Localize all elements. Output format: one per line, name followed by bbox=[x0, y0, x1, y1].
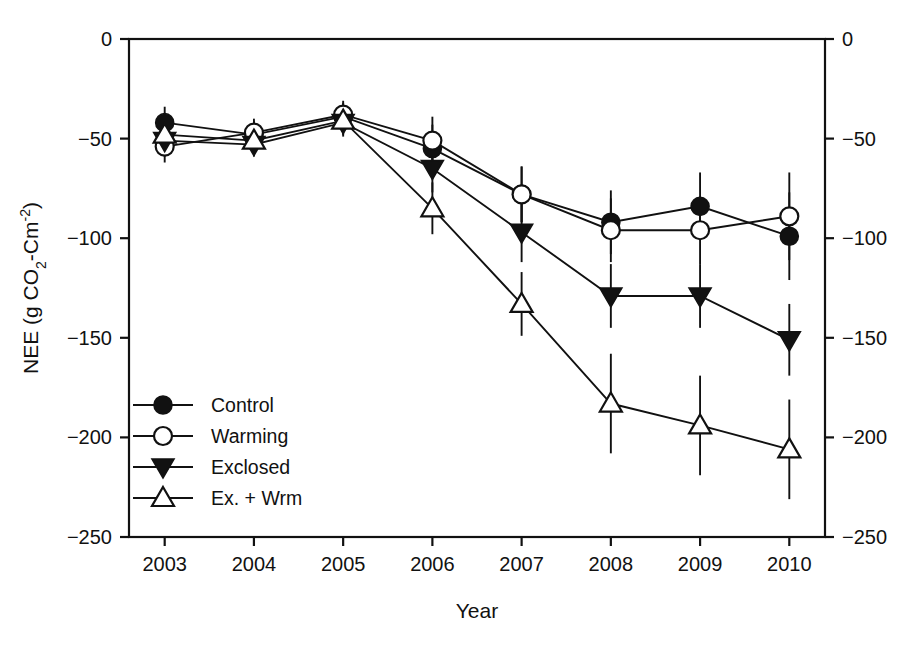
marker-filled-circle bbox=[691, 197, 709, 215]
legend-label: Control bbox=[211, 394, 274, 416]
marker-open-circle bbox=[513, 185, 531, 203]
legend-item-exclosed: Exclosed bbox=[133, 456, 290, 478]
y-axis-title-middle: -Cm bbox=[19, 221, 42, 261]
y-tick-label-right: −200 bbox=[842, 426, 887, 448]
x-tick-label: 2007 bbox=[499, 553, 544, 575]
x-tick-label: 2006 bbox=[410, 553, 455, 575]
legend-item-warming: Warming bbox=[133, 425, 288, 447]
marker-open-circle bbox=[423, 132, 441, 150]
y-tick-label-right: −150 bbox=[842, 327, 887, 349]
legend-label: Warming bbox=[211, 425, 288, 447]
marker-open-up-triangle bbox=[152, 487, 174, 506]
y-tick-label-left: −150 bbox=[67, 327, 112, 349]
x-axis: 20032004200520062007200820092010 bbox=[142, 537, 811, 575]
x-tick-label: 2009 bbox=[678, 553, 723, 575]
y-axis-title-suffix: ) bbox=[19, 202, 42, 209]
legend-item-ex-wrm: Ex. + Wrm bbox=[133, 487, 302, 509]
y-tick-label-right: −250 bbox=[842, 526, 887, 548]
x-tick-label: 2003 bbox=[142, 553, 187, 575]
y-axis-title-prefix: NEE (g CO bbox=[19, 269, 42, 374]
marker-filled-circle bbox=[154, 396, 172, 414]
marker-filled-down-triangle bbox=[778, 332, 800, 351]
y-axis-title: NEE (g CO2-Cm-2) bbox=[17, 202, 49, 374]
marker-filled-down-triangle bbox=[511, 224, 533, 243]
x-tick-label: 2005 bbox=[321, 553, 366, 575]
x-tick-label: 2010 bbox=[767, 553, 812, 575]
y-tick-label-left: −50 bbox=[78, 128, 112, 150]
legend-label: Ex. + Wrm bbox=[211, 487, 302, 509]
marker-filled-down-triangle bbox=[600, 288, 622, 307]
marker-open-circle bbox=[154, 427, 172, 445]
y-tick-label-left: −200 bbox=[67, 426, 112, 448]
y-tick-label-right: 0 bbox=[842, 28, 853, 50]
marker-filled-circle bbox=[780, 227, 798, 245]
y-tick-label-left: −100 bbox=[67, 227, 112, 249]
marker-filled-down-triangle bbox=[421, 160, 443, 179]
y-tick-label-right: −50 bbox=[842, 128, 876, 150]
y-axis-title-superscript: -2 bbox=[17, 209, 33, 222]
x-axis-title: Year bbox=[456, 599, 498, 622]
x-tick-label: 2008 bbox=[589, 553, 634, 575]
legend-item-control: Control bbox=[133, 394, 274, 416]
x-tick-label: 2004 bbox=[232, 553, 277, 575]
y-tick-label-left: 0 bbox=[101, 28, 112, 50]
marker-open-circle bbox=[691, 221, 709, 239]
y-axis-right: 0−50−100−150−200−250 bbox=[825, 28, 887, 548]
marker-filled-down-triangle bbox=[689, 288, 711, 307]
marker-open-circle bbox=[602, 221, 620, 239]
marker-filled-down-triangle bbox=[152, 459, 174, 478]
y-tick-label-right: −100 bbox=[842, 227, 887, 249]
chart-legend: ControlWarmingExclosedEx. + Wrm bbox=[133, 394, 302, 509]
marker-open-circle bbox=[780, 207, 798, 225]
y-axis-left: 0−50−100−150−200−250 bbox=[67, 28, 129, 548]
y-axis-title-text: NEE (g CO2-Cm-2) bbox=[17, 202, 49, 374]
chart-figure: 0−50−100−150−200−250 0−50−100−150−200−25… bbox=[0, 0, 912, 647]
y-axis-title-subscript: 2 bbox=[33, 261, 49, 269]
nee-by-year-line-chart: 0−50−100−150−200−250 0−50−100−150−200−25… bbox=[0, 0, 912, 647]
legend-label: Exclosed bbox=[211, 456, 290, 478]
y-tick-label-left: −250 bbox=[67, 526, 112, 548]
